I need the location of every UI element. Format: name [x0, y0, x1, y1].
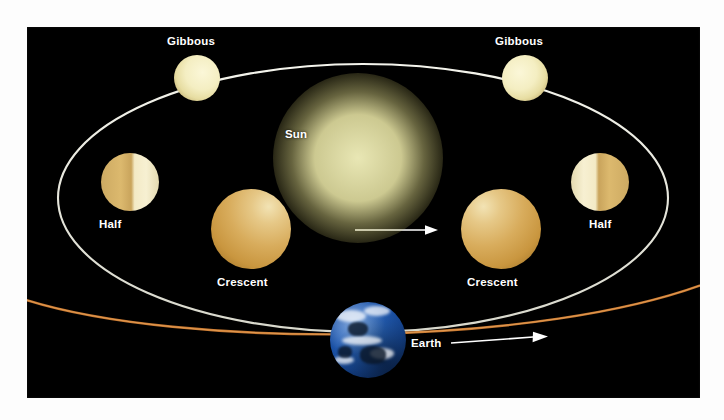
planet-half-left	[101, 153, 159, 211]
planet-gibbous-upper-right	[502, 55, 548, 101]
label-half-left: Half	[99, 218, 122, 230]
planet-crescent-lower-left	[211, 189, 291, 269]
planet-gibbous-upper-left	[174, 55, 220, 101]
label-sun: Sun	[285, 128, 307, 140]
label-half-right: Half	[589, 218, 612, 230]
earth-globe	[330, 302, 406, 378]
sky-panel: Gibbous Gibbous Sun Half Half Crescent C…	[27, 27, 700, 398]
label-crescent-lower-right: Crescent	[467, 276, 518, 288]
label-earth: Earth	[411, 337, 441, 349]
label-crescent-lower-left: Crescent	[217, 276, 268, 288]
label-gibbous-upper-right: Gibbous	[495, 35, 543, 47]
astronomy-phase-diagram: Gibbous Gibbous Sun Half Half Crescent C…	[0, 0, 724, 420]
planet-crescent-lower-right	[461, 189, 541, 269]
label-gibbous-upper-left: Gibbous	[167, 35, 215, 47]
planet-half-right	[571, 153, 629, 211]
